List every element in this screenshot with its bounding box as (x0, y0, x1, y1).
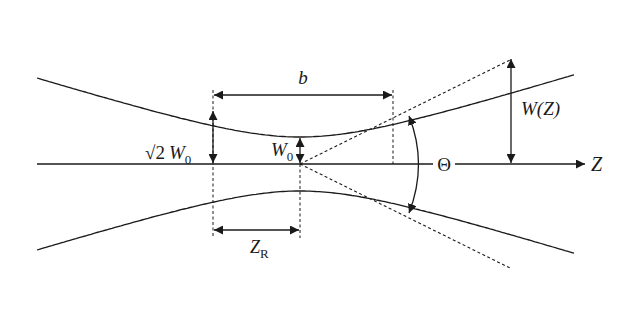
beam-width-label: W(Z) (521, 98, 560, 120)
rayleigh-range-subscript: R (260, 246, 269, 261)
beam-envelope-bottom (37, 191, 574, 253)
sqrt2-radical: √2 (145, 142, 165, 163)
rayleigh-range-label: ZR (250, 237, 269, 261)
waist-subscript: 0 (287, 149, 294, 164)
divergence-angle-label: Θ (437, 154, 451, 175)
asymptote-bottom (300, 164, 510, 268)
axis-label: Z (591, 153, 603, 175)
sqrt2-waist-subscript: 0 (185, 152, 192, 167)
sqrt2-waist-label: √2W0 (145, 142, 191, 167)
waist-label: W0 (271, 139, 293, 164)
confocal-parameter-label: b (298, 67, 308, 88)
gaussian-beam-diagram: b √2W0 W0 ZR W(Z) Θ Z (0, 0, 620, 317)
asymptote-top (300, 60, 510, 164)
